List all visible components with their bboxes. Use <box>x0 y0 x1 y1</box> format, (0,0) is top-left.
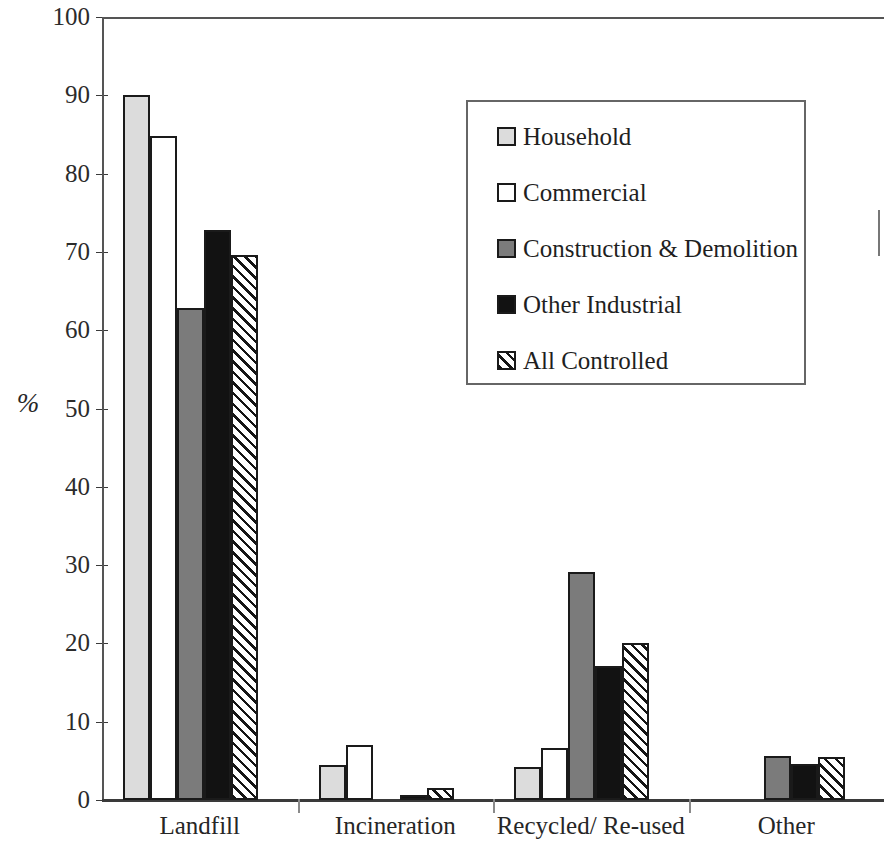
legend-item[interactable]: Commercial <box>497 179 647 205</box>
x-tick-label: Other <box>689 812 884 840</box>
y-tick-label: 70 <box>28 239 90 264</box>
bar <box>764 756 791 800</box>
legend-item[interactable]: Household <box>497 123 631 149</box>
bar <box>150 136 177 800</box>
y-tick-label: 20 <box>28 630 90 655</box>
bar <box>177 308 204 800</box>
legend-label: Commercial <box>523 180 647 205</box>
bar <box>319 765 346 800</box>
y-tick-label: 60 <box>28 317 90 342</box>
bar-group <box>298 17 494 800</box>
legend-item[interactable]: Construction & Demolition <box>497 235 798 261</box>
legend-swatch-icon <box>497 239 516 258</box>
bar-chart: % 1009080706050403020100 LandfillInciner… <box>0 0 884 851</box>
y-tick-label: 40 <box>28 474 90 499</box>
x-axis-group-tick <box>493 799 495 813</box>
bar <box>622 643 649 800</box>
bar-group <box>102 17 298 800</box>
legend-label: All Controlled <box>523 348 668 373</box>
bar <box>123 95 150 800</box>
legend-item[interactable]: All Controlled <box>497 347 668 373</box>
x-axis-group-tick <box>298 799 300 813</box>
bar <box>568 572 595 800</box>
legend-swatch-icon <box>497 127 516 146</box>
bar <box>427 788 454 800</box>
bar <box>791 764 818 800</box>
x-axis-group-tick <box>689 799 691 813</box>
bar <box>400 795 427 800</box>
legend-swatch-icon <box>497 351 516 370</box>
y-tick-label: 80 <box>28 161 90 186</box>
legend: HouseholdCommercialConstruction & Demoli… <box>466 100 806 385</box>
bar <box>204 230 231 800</box>
y-tick-label: 50 <box>28 396 90 421</box>
bar <box>541 748 568 800</box>
y-tick-label: 10 <box>28 709 90 734</box>
legend-item[interactable]: Other Industrial <box>497 291 682 317</box>
legend-swatch-icon <box>497 295 516 314</box>
x-tick-label: Incineration <box>298 812 494 840</box>
y-tick-label: 90 <box>28 82 90 107</box>
legend-label: Construction & Demolition <box>523 236 798 261</box>
y-tick-label: 30 <box>28 552 90 577</box>
bar <box>346 745 373 800</box>
legend-label: Other Industrial <box>523 292 682 317</box>
bar <box>231 255 258 800</box>
bar <box>595 666 622 800</box>
y-tick-label: 0 <box>28 787 90 812</box>
x-tick-label: Landfill <box>102 812 298 840</box>
x-tick-label: Recycled/ Re-used <box>493 812 689 840</box>
legend-swatch-icon <box>497 183 516 202</box>
bar <box>818 757 845 800</box>
legend-label: Household <box>523 124 631 149</box>
bar <box>514 767 541 800</box>
y-tick-label: 100 <box>28 4 90 29</box>
